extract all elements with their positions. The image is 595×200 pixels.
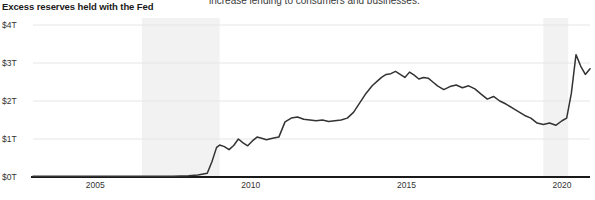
x-axis-tick-label: 2010	[241, 180, 260, 190]
y-axis-tick-label: $4T	[2, 20, 17, 30]
y-axis-tick-label: $2T	[2, 96, 17, 106]
x-axis-tick-label: 2015	[397, 180, 416, 190]
data-series-group	[33, 55, 590, 177]
line-chart-svg	[0, 0, 595, 200]
gridlines-group	[33, 25, 590, 139]
y-axis-tick-label: $3T	[2, 58, 17, 68]
y-axis-tick-label: $0T	[2, 172, 17, 182]
recession-band	[142, 18, 220, 177]
plot-area: $0T$1T$2T$3T$4T 2005201020152020	[0, 0, 595, 200]
series-line	[33, 55, 590, 177]
recession-shading-group	[142, 18, 568, 177]
x-axis-tick-label: 2005	[86, 180, 105, 190]
x-axis-tick-label: 2020	[553, 180, 572, 190]
y-axis-tick-label: $1T	[2, 134, 17, 144]
recession-band	[543, 18, 568, 177]
